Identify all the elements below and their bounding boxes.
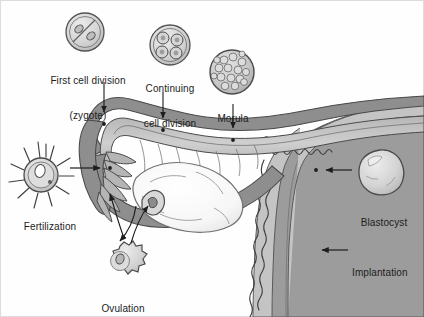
label-first-cell-division-line2: (zygote): [50, 110, 125, 122]
figure-canvas: First cell division (zygote) Continuing …: [0, 0, 424, 317]
label-morula: Morula: [217, 90, 248, 136]
zygote-cell: [66, 13, 104, 51]
label-continuing-cell-division-line1: Continuing: [144, 83, 196, 95]
label-continuing-cell-division: Continuing cell division: [144, 60, 196, 141]
label-ovulation: Ovulation: [101, 280, 144, 317]
label-fertilization: Fertilization: [24, 198, 76, 244]
blastocyst-cell: [359, 150, 404, 195]
label-fertilization-line1: Fertilization: [24, 221, 76, 233]
label-implantation: Implantation: [352, 244, 408, 290]
label-first-cell-division-line1: First cell division: [50, 75, 125, 87]
ovulation-cell: [111, 241, 148, 274]
label-morula-line1: Morula: [217, 113, 248, 125]
label-implantation-line1: Implantation: [352, 267, 408, 279]
cleavage-cell: [150, 25, 190, 65]
label-continuing-cell-division-line2: cell division: [144, 118, 196, 130]
label-blastocyst-line1: Blastocyst: [361, 217, 408, 229]
morula-cell: [210, 50, 254, 94]
label-ovulation-line1: Ovulation: [101, 303, 144, 315]
label-blastocyst: Blastocyst: [361, 194, 408, 240]
label-first-cell-division: First cell division (zygote): [50, 52, 125, 133]
